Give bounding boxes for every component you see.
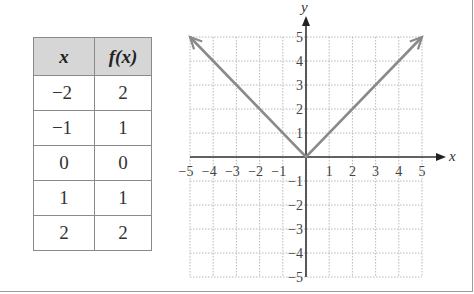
y-tick-label: −2 <box>288 198 303 213</box>
x-tick-label: −3 <box>225 164 240 179</box>
x-axis-arrow-icon <box>436 153 446 161</box>
y-axis-arrow-icon <box>302 16 310 26</box>
x-tick-label: 4 <box>395 164 402 179</box>
x-tick-label: 5 <box>419 164 426 179</box>
x-tick-label: 2 <box>349 164 356 179</box>
y-tick-label: 5 <box>296 30 303 45</box>
x-tick-label: −4 <box>202 164 217 179</box>
x-axis-label: x <box>448 148 456 164</box>
y-tick-label: −5 <box>288 270 303 285</box>
y-tick-label: 2 <box>296 102 303 117</box>
y-tick-label: 4 <box>296 54 303 69</box>
y-tick-label: −3 <box>288 222 303 237</box>
y-tick-label: −4 <box>288 246 303 261</box>
x-tick-label: −2 <box>248 164 263 179</box>
y-tick-label: 1 <box>296 126 303 141</box>
x-tick-label: −5 <box>179 164 194 179</box>
coordinate-plot: x y −5−4−3−2−112345 54321−1−2−3−4−5 <box>0 0 474 294</box>
x-tick-label: −1 <box>271 164 286 179</box>
x-tick-label: 1 <box>326 164 333 179</box>
y-tick-label: −1 <box>288 174 303 189</box>
x-tick-label: 3 <box>372 164 379 179</box>
y-tick-label: 3 <box>296 78 303 93</box>
y-axis-label: y <box>299 0 308 15</box>
